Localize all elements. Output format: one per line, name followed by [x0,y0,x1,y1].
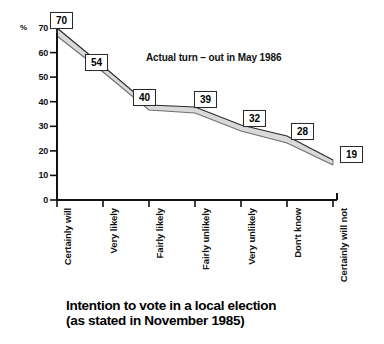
y-axis-ticks [50,28,57,200]
y-tick-label-60: 60 [26,48,48,58]
x-label-fairly-unlikely: Fairly unlikely [200,208,211,298]
y-tick-label-0: 0 [26,195,48,205]
chart-figure: % 70 60 50 40 30 20 10 0 Actual turn – o… [0,0,384,344]
value-label-dont-know: 28 [291,123,314,140]
value-label-very-likely: 54 [85,54,108,71]
x-label-very-unlikely: Very unlikely [246,208,257,298]
y-tick-label-70: 70 [26,23,48,33]
value-label-certainly-will: 70 [50,12,73,29]
x-label-dont-know: Don't know [292,208,303,298]
x-label-very-likely: Very likely [108,208,119,298]
chart-annotation: Actual turn – out in May 1986 [146,52,281,63]
value-label-fairly-unlikely: 39 [194,91,217,108]
value-label-fairly-likely: 40 [133,89,156,106]
y-tick-label-20: 20 [26,146,48,156]
y-tick-label-10: 10 [26,170,48,180]
y-tick-label-30: 30 [26,121,48,131]
x-label-certainly-will: Certainly will [62,208,73,298]
y-tick-label-50: 50 [26,72,48,82]
value-label-very-unlikely: 32 [243,110,266,127]
y-tick-label-40: 40 [26,97,48,107]
x-label-fairly-likely: Fairly likely [154,208,165,298]
caption-line-1: Intention to vote in a local election [66,298,366,313]
caption-line-2: (as stated in November 1985) [66,313,366,328]
x-label-certainly-will-not: Certainly will not [338,208,349,298]
chart-caption: Intention to vote in a local election (a… [66,298,366,328]
value-label-certainly-will-not: 19 [340,146,363,163]
